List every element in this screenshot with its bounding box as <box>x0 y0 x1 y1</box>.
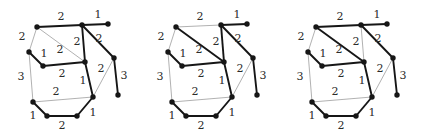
edge-JH-thin <box>312 97 372 102</box>
spanning-tree-3: 2122122231232121 <box>297 8 407 132</box>
edge-weight-label-DJ: 3 <box>157 70 164 83</box>
edge-weight-label-DJ: 3 <box>18 70 25 83</box>
node-F <box>361 59 366 64</box>
edge-weight-label-DE: 1 <box>41 47 48 60</box>
edge-weight-label-BG: 2 <box>235 32 242 45</box>
node-L <box>213 113 218 118</box>
edge-weight-label-LH: 1 <box>229 106 236 119</box>
edge-weight-label-JK: 1 <box>30 109 37 122</box>
edge-DJ-thin <box>168 52 172 102</box>
edge-weight-label-KL: 2 <box>59 119 66 132</box>
node-E <box>40 63 45 68</box>
edge-AD-thin <box>308 27 316 52</box>
edge-weight-label-AB: 2 <box>337 10 344 23</box>
node-D <box>26 49 31 54</box>
edge-BC-bold <box>221 24 247 25</box>
node-I <box>254 92 259 97</box>
edge-weight-label-BF: 2 <box>213 35 220 48</box>
edge-EF-bold <box>43 62 85 66</box>
edge-AB-thin <box>176 25 221 27</box>
edge-EF-bold <box>182 62 224 66</box>
edge-weight-label-EF: 2 <box>59 67 66 80</box>
edge-weight-label-BG: 2 <box>375 32 382 45</box>
node-A <box>313 24 318 29</box>
node-K <box>44 113 49 118</box>
edge-weight-label-BG: 2 <box>96 32 103 45</box>
edge-weight-label-GI: 3 <box>400 69 407 82</box>
edge-weight-label-GH: 2 <box>237 62 244 75</box>
node-J <box>30 99 35 104</box>
node-B <box>218 22 223 27</box>
edge-weight-label-BC: 1 <box>95 8 102 21</box>
edge-weight-label-DJ: 3 <box>297 70 304 83</box>
node-K <box>183 113 188 118</box>
node-E <box>179 63 184 68</box>
edge-weight-label-AF: 2 <box>196 43 203 56</box>
edge-weight-label-AD: 2 <box>298 30 305 43</box>
spanning-trees-figure: 2122122231232121212212223123212121221222… <box>0 0 423 136</box>
edge-weight-label-JH: 2 <box>192 85 199 98</box>
edge-DJ-thin <box>308 52 312 102</box>
node-I <box>115 92 120 97</box>
edge-weight-label-BF: 2 <box>353 35 360 48</box>
edge-weight-label-FH: 1 <box>80 74 87 87</box>
node-F <box>221 59 226 64</box>
edge-weight-label-KL: 2 <box>198 119 205 132</box>
edge-weight-label-BC: 1 <box>234 8 241 21</box>
node-L <box>74 113 79 118</box>
edge-weight-label-JH: 2 <box>53 85 60 98</box>
edge-weight-label-JH: 2 <box>332 85 339 98</box>
edge-weight-label-AD: 2 <box>19 30 26 43</box>
spanning-tree-1: 2122122231232121 <box>18 8 128 132</box>
edge-EF-bold <box>322 62 364 66</box>
node-G <box>111 55 116 60</box>
edge-weight-label-JK: 1 <box>309 109 316 122</box>
spanning-tree-2: 2122122231232121 <box>157 8 267 132</box>
edge-AD-thin <box>29 27 37 52</box>
node-C <box>244 21 249 26</box>
node-F <box>82 59 87 64</box>
edge-JH-thin <box>172 97 232 102</box>
edge-DJ-thin <box>29 52 33 102</box>
edge-weight-label-EF: 2 <box>198 67 205 80</box>
node-A <box>173 24 178 29</box>
node-C <box>105 21 110 26</box>
edge-AB-bold <box>37 25 82 27</box>
node-A <box>34 24 39 29</box>
node-G <box>390 55 395 60</box>
edge-weight-label-GI: 3 <box>260 69 267 82</box>
edge-JH-thin <box>33 97 93 102</box>
node-D <box>305 49 310 54</box>
edge-AB-bold <box>316 25 361 27</box>
edge-weight-label-LH: 1 <box>369 106 376 119</box>
edge-weight-label-JK: 1 <box>169 109 176 122</box>
node-E <box>319 63 324 68</box>
node-J <box>309 99 314 104</box>
figure-svg: 2122122231232121212212223123212121221222… <box>0 0 423 136</box>
edge-weight-label-AB: 2 <box>197 10 204 23</box>
edge-BF-thin <box>361 25 364 62</box>
edge-BF-bold <box>221 25 224 62</box>
node-I <box>394 92 399 97</box>
edge-AD-thin <box>168 27 176 52</box>
edge-weight-label-AB: 2 <box>58 10 65 23</box>
edge-weight-label-DE: 1 <box>180 47 187 60</box>
edge-weight-label-AF: 2 <box>336 43 343 56</box>
edge-weight-label-AF: 2 <box>57 43 64 56</box>
edge-GI-bold <box>114 58 118 95</box>
node-J <box>169 99 174 104</box>
edge-weight-label-AD: 2 <box>158 30 165 43</box>
node-H <box>90 94 95 99</box>
node-K <box>323 113 328 118</box>
edge-weight-label-FH: 1 <box>219 74 226 87</box>
edge-BC-bold <box>82 24 108 25</box>
node-D <box>165 49 170 54</box>
node-B <box>358 22 363 27</box>
node-C <box>384 21 389 26</box>
edge-GI-bold <box>253 58 257 95</box>
node-B <box>79 22 84 27</box>
node-L <box>353 113 358 118</box>
edge-weight-label-BF: 2 <box>74 35 81 48</box>
node-H <box>229 94 234 99</box>
edge-weight-label-GH: 2 <box>98 62 105 75</box>
